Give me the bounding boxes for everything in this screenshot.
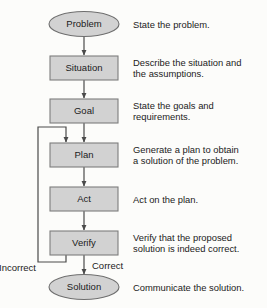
node-plan-label: Plan: [74, 149, 93, 160]
node-verify-label: Verify: [72, 237, 96, 248]
description-situation: Describe the situation and the assumptio…: [133, 57, 265, 80]
node-solution-label: Solution: [67, 281, 101, 292]
description-solution: Communicate the solution.: [133, 282, 265, 293]
description-goal: State the goals and requirements.: [133, 100, 265, 123]
description-act: Act on the plan.: [133, 194, 265, 205]
description-verify: Verify that the proposed solution is ind…: [133, 232, 265, 255]
node-situation-label: Situation: [66, 62, 103, 73]
node-act-label: Act: [77, 193, 91, 204]
node-goal-label: Goal: [74, 105, 94, 116]
node-problem-label: Problem: [66, 18, 101, 29]
flowchart-diagram: Problem Situation Goal Plan Act Verify S…: [0, 0, 267, 308]
description-problem: State the problem.: [133, 19, 265, 30]
branch-label-incorrect: Incorrect: [0, 262, 36, 273]
description-plan: Generate a plan to obtain a solution of …: [133, 144, 265, 167]
branch-label-correct: Correct: [92, 260, 124, 271]
